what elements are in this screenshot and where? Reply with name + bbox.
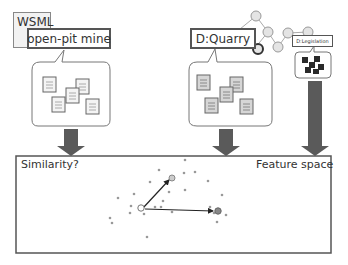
quarry-label: D:Quarry (196, 32, 250, 46)
open-pit-label-box: open-pit mine (27, 28, 111, 49)
feature-points (109, 159, 228, 239)
legislation-point-icon (215, 208, 221, 214)
vector-to-legislation (145, 209, 213, 211)
similarity-label: Similarity? (21, 158, 79, 171)
down-arrow-left-icon (57, 129, 85, 156)
vector-to-quarry (143, 180, 169, 208)
legislation-label-box: D:Legislation (292, 35, 333, 47)
quarry-point-icon (169, 175, 175, 181)
query-point-icon (138, 205, 144, 211)
legislation-label: D:Legislation (296, 38, 329, 44)
down-arrow-right-icon (301, 81, 329, 156)
down-arrow-middle-icon (212, 129, 240, 156)
quarry-label-box: D:Quarry (190, 28, 256, 49)
feature-space-label: Feature space (256, 158, 333, 171)
wsml-label: WSML (17, 15, 54, 29)
open-pit-label: open-pit mine (27, 32, 111, 46)
